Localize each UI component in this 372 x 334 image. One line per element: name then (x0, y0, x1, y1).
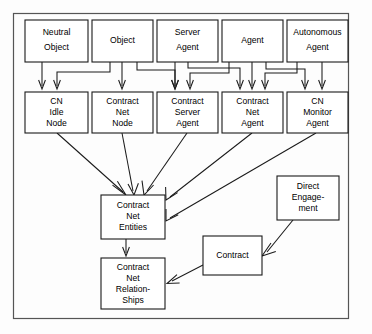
diagram-svg: Neutral Object Object Server Agent Agent… (0, 0, 372, 334)
node-contract-line-0: Contract (216, 250, 249, 260)
node-object-line-0: Object (110, 35, 135, 45)
node-contract-net-entities-line-1: Net (126, 211, 140, 221)
node-cn-monitor-agent-line-1: Monitor (303, 107, 332, 117)
node-contract-net-node-line-0: Contract (106, 96, 139, 106)
node-server-agent-line-0: Server (175, 27, 200, 37)
node-contract-net-relationships-line-3: Ships (122, 295, 144, 305)
node-contract-server-agent-line-2: Agent (176, 118, 199, 128)
node-direct-engagement-line-1: Engage- (292, 192, 325, 202)
node-cn-monitor-agent[interactable]: CN Monitor Agent (287, 92, 348, 133)
node-cn-idle-node-line-1: Idle (50, 107, 64, 117)
node-contract-net-node-line-1: Net (116, 107, 130, 117)
node-direct-engagement[interactable]: Direct Engage- ment (277, 176, 339, 220)
node-direct-engagement-line-0: Direct (297, 181, 320, 191)
node-autonomous-agent-line-1: Agent (306, 42, 329, 52)
node-contract-server-agent-line-0: Contract (171, 96, 204, 106)
node-contract-net-relationships[interactable]: Contract Net Relation- Ships (101, 258, 165, 309)
node-contract-net-agent-line-0: Contract (236, 96, 269, 106)
node-neutral-object-line-0: Neutral (43, 27, 71, 37)
node-direct-engagement-line-2: ment (298, 203, 318, 213)
diagram-canvas: Neutral Object Object Server Agent Agent… (0, 0, 372, 334)
node-server-agent-line-1: Agent (176, 42, 199, 52)
node-contract-net-entities-line-2: Entities (119, 222, 147, 232)
node-neutral-object[interactable]: Neutral Object (25, 20, 88, 62)
node-contract-net-relationships-line-1: Net (126, 273, 140, 283)
node-autonomous-agent[interactable]: Autonomous Agent (287, 20, 348, 62)
node-contract-server-agent[interactable]: Contract Server Agent (157, 92, 218, 133)
node-cn-idle-node[interactable]: CN Idle Node (25, 92, 88, 133)
node-cn-idle-node-line-2: Node (46, 118, 67, 128)
node-contract[interactable]: Contract (203, 236, 262, 275)
node-server-agent[interactable]: Server Agent (157, 20, 218, 62)
node-contract-net-entities-line-0: Contract (117, 200, 150, 210)
node-contract-net-node-line-2: Node (112, 118, 133, 128)
node-contract-server-agent-line-1: Server (175, 107, 200, 117)
node-cn-monitor-agent-line-2: Agent (306, 118, 329, 128)
node-agent-line-0: Agent (241, 35, 264, 45)
node-contract-net-agent[interactable]: Contract Net Agent (222, 92, 283, 133)
node-contract-net-node[interactable]: Contract Net Node (92, 92, 153, 133)
node-object[interactable]: Object (92, 20, 153, 62)
node-contract-net-relationships-line-2: Relation- (116, 284, 151, 294)
node-contract-net-agent-line-2: Agent (241, 118, 264, 128)
node-contract-net-relationships-line-0: Contract (117, 262, 150, 272)
node-neutral-object-line-1: Object (44, 42, 69, 52)
node-cn-idle-node-line-0: CN (50, 96, 62, 106)
node-cn-monitor-agent-line-0: CN (311, 96, 323, 106)
node-contract-net-agent-line-1: Net (246, 107, 260, 117)
node-autonomous-agent-line-0: Autonomous (293, 27, 341, 37)
node-contract-net-entities[interactable]: Contract Net Entities (101, 195, 165, 239)
node-agent[interactable]: Agent (222, 20, 283, 62)
